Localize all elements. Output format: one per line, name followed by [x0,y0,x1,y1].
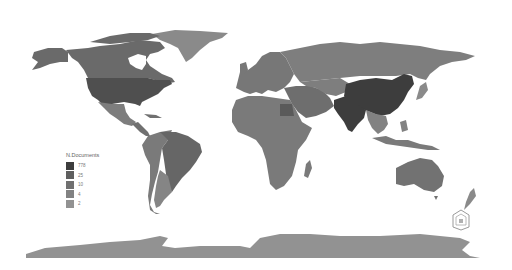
legend-item: 778 [66,161,99,171]
region-alaska[interactable] [32,48,68,70]
legend-swatch [66,181,74,189]
region-canada[interactable] [66,40,175,84]
world-map [0,0,512,270]
region-new-zealand[interactable] [464,188,476,210]
legend-swatch [66,171,74,179]
region-tasmania[interactable] [434,196,438,200]
legend: N.Documents 778 25 10 4 2 [66,152,99,209]
region-caribbean[interactable] [144,114,162,118]
legend-label: 2 [78,201,81,206]
legend-label: 778 [78,163,86,168]
legend-title: N.Documents [66,152,99,158]
region-antarctica[interactable] [26,234,480,258]
region-japan[interactable] [416,82,428,100]
region-philippines[interactable] [400,120,408,132]
legend-item: 10 [66,180,99,190]
legend-item: 2 [66,199,99,209]
region-mexico[interactable] [98,102,136,126]
region-madagascar[interactable] [304,160,312,178]
publisher-logo-icon [452,209,470,231]
legend-label: 25 [78,173,83,178]
legend-swatch [66,200,74,208]
legend-label: 4 [78,192,81,197]
region-central-america[interactable] [132,122,150,136]
legend-item: 4 [66,190,99,200]
region-greenland[interactable] [152,30,228,62]
legend-swatch [66,162,74,170]
region-usa[interactable] [86,78,172,106]
legend-item: 25 [66,171,99,181]
region-indonesia[interactable] [372,136,440,150]
region-russia[interactable] [280,42,475,82]
region-australia[interactable] [396,158,444,192]
legend-swatch [66,190,74,198]
legend-label: 10 [78,182,83,187]
region-egypt[interactable] [280,104,294,116]
